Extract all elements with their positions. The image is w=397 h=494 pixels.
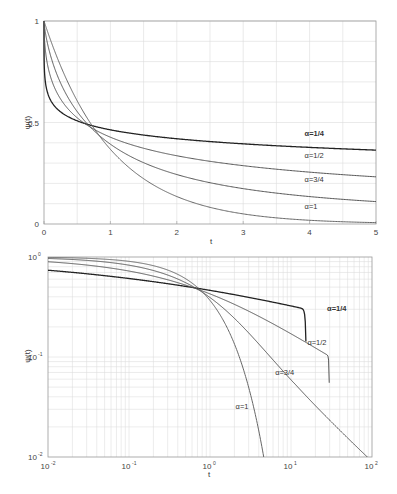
- series-annotation: α=1/2: [307, 338, 326, 347]
- y-tick-label: 1: [35, 17, 40, 26]
- x-tick-label: 3: [241, 228, 246, 237]
- series-line-4: [48, 257, 266, 466]
- y-axis-label: ψ(t): [23, 349, 32, 363]
- x-tick-exponent: -1: [132, 460, 137, 466]
- x-tick-label: 10: [365, 462, 374, 471]
- y-tick-exponent: 0: [38, 251, 41, 257]
- x-tick-label: 4: [307, 228, 312, 237]
- x-tick-exponent: -2: [51, 460, 56, 466]
- bottom-plot-loglog: 10-210-110010110210-210-1100tψ(t)α=1/4α=…: [23, 251, 378, 479]
- x-tick-label: 10: [284, 462, 293, 471]
- y-tick-label: 0: [35, 220, 40, 229]
- y-tick-label: 10: [28, 253, 37, 262]
- series-annotation: α=1/2: [305, 151, 324, 160]
- series-annotation: α=1: [305, 202, 318, 211]
- x-tick-label: 0: [42, 228, 47, 237]
- y-tick-label: 10: [28, 453, 37, 462]
- x-tick-exponent: 0: [213, 460, 216, 466]
- y-tick-exponent: -1: [38, 351, 43, 357]
- y-axis-label: ψ(t): [23, 116, 32, 130]
- series-annotation: α=3/4: [305, 175, 324, 184]
- x-tick-exponent: 1: [294, 460, 297, 466]
- x-tick-label: 10: [41, 462, 50, 471]
- top-plot-linear: 01234500.51tψ(t)α=1/4α=1/2α=3/4α=1: [23, 17, 379, 246]
- series-annotation: α=1/4: [327, 304, 347, 313]
- x-axis-label: t: [210, 237, 213, 246]
- y-tick-exponent: -2: [38, 451, 43, 457]
- x-tick-label: 1: [108, 228, 113, 237]
- series-annotation: α=1/4: [305, 129, 325, 138]
- x-tick-exponent: 2: [375, 460, 378, 466]
- x-tick-label: 5: [374, 228, 379, 237]
- x-axis-label: t: [208, 470, 211, 479]
- series-annotation: α=1: [236, 402, 249, 411]
- figure: 01234500.51tψ(t)α=1/4α=1/2α=3/4α=1 10-21…: [0, 0, 397, 494]
- x-tick-label: 2: [175, 228, 180, 237]
- series-annotation: α=3/4: [275, 368, 294, 377]
- x-tick-label: 10: [122, 462, 131, 471]
